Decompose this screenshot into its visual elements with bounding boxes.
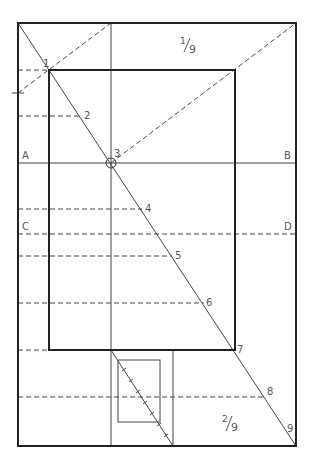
label-b: B [284, 150, 291, 161]
svg-text:9: 9 [189, 43, 196, 56]
dashed-diagonal-right [111, 23, 296, 163]
fraction-top: 1 9 [180, 36, 196, 56]
label-5: 5 [175, 250, 181, 261]
label-7: 7 [237, 344, 243, 355]
fraction-bottom: 2 9 [222, 414, 238, 434]
label-1: 1 [43, 58, 49, 69]
label-c: C [22, 221, 29, 232]
svg-text:1: 1 [180, 36, 186, 46]
label-6: 6 [206, 297, 212, 308]
svg-text:9: 9 [231, 421, 238, 434]
svg-text:2: 2 [222, 414, 228, 424]
dashed-diagonal-upper-left [18, 23, 111, 93]
label-a: A [22, 150, 29, 161]
label-3: 3 [114, 148, 120, 159]
small-rect-diagonal [111, 350, 173, 446]
label-9: 9 [287, 423, 293, 434]
label-d: D [284, 221, 292, 232]
tick [150, 412, 154, 415]
page-layout-diagram: 1 2 3 4 5 6 7 8 9 A B C D 1 9 2 9 [0, 0, 312, 468]
label-4: 4 [145, 203, 151, 214]
label-8: 8 [267, 386, 273, 397]
label-2: 2 [84, 110, 90, 121]
